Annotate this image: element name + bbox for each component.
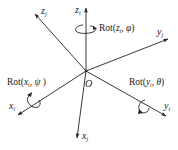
label-z-j: zj [41,6,47,17]
label-rot-y: Rot(yi, θ) [129,78,164,89]
label-rot-x: Rot(xi, ψ ) [7,78,46,89]
label-x-j: xj [82,131,88,142]
label-x-i: xi [9,101,15,112]
axis-z-j [35,14,86,71]
coordinate-frame-diagram [0,0,178,150]
label-y-i: yi [164,101,170,112]
label-y-j: yj [157,27,163,38]
axis-y-j [86,39,168,71]
label-rot-z: Rot(zi, φ) [99,24,134,35]
label-origin: O [85,79,92,89]
rotation-arrow-y-icon [138,100,149,114]
origin-point [85,70,87,72]
label-z-i: zi [75,5,81,16]
